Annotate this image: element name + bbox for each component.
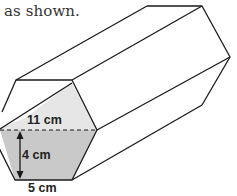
edge-bottom-right bbox=[72, 105, 202, 180]
hexagonal-prism-diagram bbox=[0, 0, 237, 196]
label-bottom-width: 5 cm bbox=[28, 181, 57, 195]
label-height: 4 cm bbox=[22, 148, 51, 162]
label-top-width: 11 cm bbox=[27, 113, 62, 127]
back-face-outline bbox=[147, 6, 230, 105]
edge-top-left bbox=[16, 6, 147, 80]
edge-right bbox=[97, 57, 230, 130]
figure: as shown. 11 cm 4 cm 5 cm bbox=[0, 0, 237, 196]
edge-top-right bbox=[72, 6, 202, 80]
